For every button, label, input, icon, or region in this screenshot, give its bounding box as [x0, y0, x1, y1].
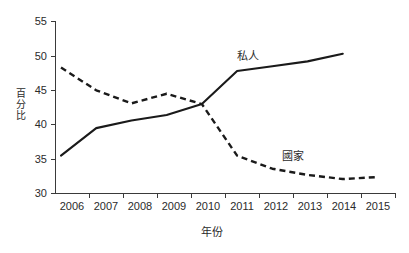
x-axis-tick-labels: 2006 2007 2008 2009 2010 2011 2012 2013 …	[60, 200, 390, 212]
y-tick-label: 30	[35, 187, 47, 199]
y-tick-label: 45	[35, 84, 47, 96]
y-tick-label: 35	[35, 153, 47, 165]
x-tick-label: 2011	[230, 200, 254, 212]
y-tick-label: 55	[35, 15, 47, 27]
x-tick-label: 2014	[332, 200, 356, 212]
y-tick-label: 40	[35, 118, 47, 130]
x-tick-label: 2012	[264, 200, 288, 212]
x-axis-title: 年份	[201, 225, 223, 238]
y-axis-ticks	[51, 22, 56, 194]
y-axis-title-char: 百	[13, 88, 28, 99]
x-tick-label: 2006	[60, 200, 84, 212]
x-tick-label: 2007	[94, 200, 118, 212]
y-axis-title: 百 分 比	[13, 88, 28, 121]
y-axis-tick-labels: 55 50 45 40 35 30	[35, 15, 47, 199]
series-label-state: 國家	[282, 149, 304, 162]
series-label-private: 私人	[237, 50, 259, 62]
x-tick-label: 2015	[366, 200, 390, 212]
x-tick-label: 2013	[298, 200, 322, 212]
line-chart-figure: 55 50 45 40 35 30 2006 2007 2008 2009	[0, 0, 409, 253]
y-tick-label: 50	[35, 50, 47, 62]
y-axis-title-char: 比	[13, 110, 28, 121]
x-tick-label: 2009	[162, 200, 186, 212]
x-tick-label: 2008	[128, 200, 152, 212]
chart-plot-area: 55 50 45 40 35 30 2006 2007 2008 2009	[0, 0, 409, 253]
series-line-state	[61, 68, 378, 179]
x-tick-label: 2010	[196, 200, 220, 212]
x-axis-ticks	[90, 194, 396, 199]
y-axis-title-char: 分	[13, 99, 28, 110]
